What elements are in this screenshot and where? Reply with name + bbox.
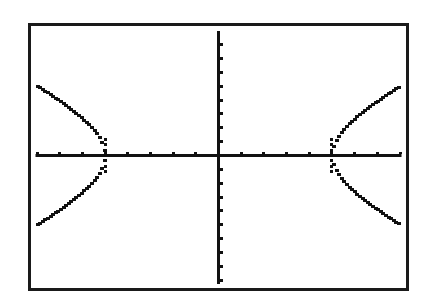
left-upper-branch-pixel <box>95 132 99 135</box>
vertex-stub-pixel <box>330 143 333 146</box>
left-lower-branch-pixel <box>80 192 84 195</box>
left-lower-branch-pixel <box>95 176 99 179</box>
y-axis-tick <box>220 99 223 102</box>
left-upper-branch-pixel <box>93 129 97 132</box>
y-axis-tick <box>220 209 223 212</box>
y-axis-tick <box>220 251 223 254</box>
y-axis-tick <box>220 279 223 282</box>
right-upper-branch-pixel <box>337 135 341 138</box>
vertex-stub-pixel <box>330 165 333 168</box>
left-lower-branch-pixel <box>93 179 97 182</box>
right-lower-branch-pixel <box>342 180 346 183</box>
x-axis-tick <box>58 152 61 154</box>
y-axis-tick <box>220 112 223 115</box>
left-upper-branch-pixel <box>80 116 84 119</box>
x-axis-tick <box>36 152 39 154</box>
vertex-stub-pixel <box>104 149 107 152</box>
x-axis-tick <box>330 152 333 154</box>
x-axis-tick <box>149 152 152 154</box>
x-axis-tick <box>104 152 107 154</box>
x-axis-tick <box>172 152 175 154</box>
left-lower-branch-pixel <box>90 182 94 185</box>
right-upper-branch-pixel <box>342 128 346 131</box>
y-axis-tick <box>220 237 223 240</box>
y-axis-tick <box>220 265 223 268</box>
y-axis-tick <box>220 57 223 60</box>
right-upper-branch-pixel <box>340 131 344 134</box>
y-axis-tick <box>220 182 223 185</box>
x-axis-tick <box>353 152 356 154</box>
x-axis-tick <box>262 152 265 154</box>
right-lower-branch-pixel <box>345 183 349 186</box>
right-upper-branch-pixel <box>397 86 401 89</box>
x-axis-tick <box>399 152 402 154</box>
vertex-stub-pixel <box>330 170 333 173</box>
y-axis-tick <box>220 85 223 88</box>
vertex-stub-pixel <box>330 149 333 152</box>
calculator-graph-screen <box>0 0 433 303</box>
x-axis-tick <box>126 152 129 154</box>
vertex-stub-pixel <box>330 159 333 162</box>
left-upper-branch-pixel <box>90 126 94 129</box>
left-upper-branch-pixel <box>98 136 102 139</box>
left-upper-branch-pixel <box>87 123 91 126</box>
y-axis <box>217 31 220 284</box>
right-lower-branch-pixel <box>397 222 401 225</box>
left-lower-branch-pixel <box>87 185 91 188</box>
vertex-stub-pixel <box>104 165 107 168</box>
vertex-stub-pixel <box>330 138 333 141</box>
x-axis-tick <box>194 152 197 154</box>
right-upper-branch-pixel <box>345 125 349 128</box>
left-upper-branch-pixel <box>100 141 104 144</box>
vertex-stub-pixel <box>104 143 107 146</box>
x-axis-tick <box>285 152 288 154</box>
right-lower-branch-pixel <box>335 169 339 172</box>
right-upper-branch-pixel <box>335 139 339 142</box>
right-lower-branch-pixel <box>337 173 341 176</box>
left-lower-branch-pixel <box>98 172 102 175</box>
x-axis-tick <box>240 152 243 154</box>
y-axis-tick <box>220 168 223 171</box>
x-axis-tick <box>376 152 379 154</box>
y-axis-tick <box>220 126 223 129</box>
x-axis-tick <box>81 152 84 154</box>
right-upper-branch-pixel <box>353 118 357 121</box>
y-axis-tick <box>220 196 223 199</box>
left-lower-branch-pixel <box>100 167 104 170</box>
y-axis-tick <box>220 71 223 74</box>
y-axis-tick <box>220 140 223 143</box>
right-lower-branch-pixel <box>353 190 357 193</box>
x-axis-tick <box>308 152 311 154</box>
right-lower-branch-pixel <box>340 177 344 180</box>
vertex-stub-pixel <box>104 159 107 162</box>
vertex-stub-pixel <box>104 138 107 141</box>
screen-background <box>0 0 433 303</box>
vertex-stub-pixel <box>104 170 107 173</box>
y-axis-tick <box>220 43 223 46</box>
y-axis-tick <box>220 223 223 226</box>
